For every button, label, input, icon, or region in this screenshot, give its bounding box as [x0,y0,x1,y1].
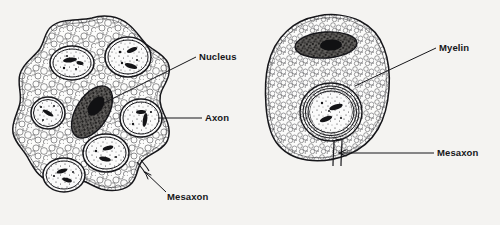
label-mesaxon-left: Mesaxon [167,191,208,202]
axon-profile [120,99,162,137]
axon-profile [50,46,94,80]
axon-profile [83,134,129,172]
axon-profile [43,158,85,192]
diagram-canvas [0,0,500,225]
label-myelin: Myelin [439,42,469,53]
axon-profile [31,97,65,129]
right-panel-myelinated-cell [255,0,405,225]
label-mesaxon-right: Mesaxon [437,147,478,158]
label-axon: Axon [205,112,229,123]
axon-profile [105,37,151,77]
figure-container: Nucleus Axon Mesaxon Myelin Mesaxon [0,0,500,225]
leader-mesaxon-left [145,172,166,192]
label-nucleus: Nucleus [199,51,237,62]
